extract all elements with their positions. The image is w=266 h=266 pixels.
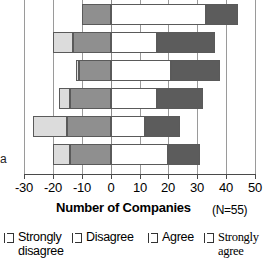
x-tick-label-50: 50: [238, 180, 266, 195]
legend-swatch-fill: [205, 233, 207, 252]
legend-item-strongly-disagree[interactable]: Strongly disagree: [4, 231, 64, 258]
tick--10: [82, 174, 83, 179]
bar-segment-disagree: [73, 32, 111, 53]
bar-segment-strongly-disagree: [53, 144, 70, 165]
bar-row: [24, 144, 255, 165]
bar-segment-disagree: [67, 116, 110, 137]
sample-size-note: (N=55): [212, 203, 247, 217]
y-category-label-clipped: a: [0, 152, 7, 166]
legend-swatch-fill: [149, 233, 151, 252]
legend-swatch-fill: [5, 233, 7, 252]
bar-segment-disagree: [79, 60, 111, 81]
legend-label: Agree: [162, 231, 194, 245]
bar-row: [24, 60, 255, 81]
legend-label: Disagree: [86, 231, 134, 245]
bar-segment-strongly-agree: [145, 116, 180, 137]
legend-swatch-icon: [148, 233, 158, 243]
bar-segment-agree: [111, 144, 169, 165]
legend: Strongly disagreeDisagreeAgreeStrongly a…: [0, 231, 266, 266]
tick--30: [24, 174, 25, 179]
legend-label: Strongly disagree: [18, 231, 64, 258]
bar-segment-disagree: [70, 144, 110, 165]
bar-row: [24, 32, 255, 53]
legend-swatch-icon: [204, 233, 214, 243]
legend-swatch-icon: [4, 233, 14, 243]
tick-40: [226, 174, 227, 179]
bar-row: [24, 4, 255, 25]
tick-50: [255, 174, 256, 179]
bar-row: [24, 88, 255, 109]
bar-segment-agree: [111, 88, 157, 109]
bar-segment-strongly-agree: [157, 32, 215, 53]
bar-segment-strongly-disagree: [53, 32, 73, 53]
tick-0: [111, 174, 112, 179]
plot-area: [24, 0, 255, 174]
tick-10: [140, 174, 141, 179]
tick-20: [168, 174, 169, 179]
legend-label: Strongly agree: [218, 231, 259, 258]
legend-swatch-icon: [72, 233, 82, 243]
bar-segment-strongly-disagree: [33, 116, 68, 137]
bar-segment-strongly-agree: [206, 4, 238, 25]
bar-segment-strongly-agree: [157, 88, 203, 109]
legend-swatch-fill: [73, 233, 75, 252]
bar-segment-agree: [111, 60, 172, 81]
bar-segment-agree: [111, 4, 206, 25]
bar-segment-strongly-agree: [171, 60, 220, 81]
gridline-50: [255, 0, 256, 174]
bar-segment-strongly-disagree: [59, 88, 71, 109]
bar-segment-disagree: [70, 88, 110, 109]
legend-item-disagree[interactable]: Disagree: [72, 231, 134, 245]
legend-item-agree[interactable]: Agree: [148, 231, 194, 245]
stacked-bar-chart: a -30-20-1001020304050 Number of Compani…: [0, 0, 266, 266]
tick-30: [197, 174, 198, 179]
bar-segment-disagree: [82, 4, 111, 25]
tick--20: [53, 174, 54, 179]
bar-segment-agree: [111, 116, 146, 137]
legend-item-strongly-agree[interactable]: Strongly agree: [204, 231, 259, 258]
bar-segment-agree: [111, 32, 157, 53]
bar-row: [24, 116, 255, 137]
x-axis-title: Number of Companies: [56, 200, 191, 215]
bar-segment-strongly-agree: [168, 144, 200, 165]
